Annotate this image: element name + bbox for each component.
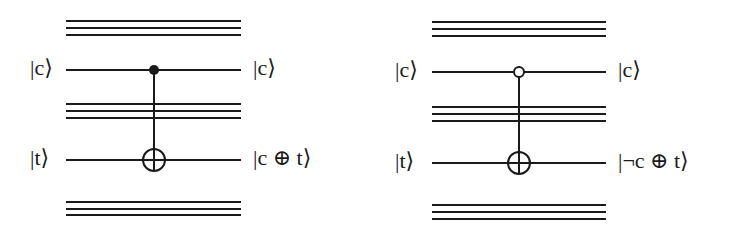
cnot-negative-control-panel: |c⟩ |t⟩ |c⟩ |¬c ⊕ t⟩: [395, 22, 689, 219]
filled-control-dot-icon: [149, 65, 159, 75]
input-label-control: |c⟩: [395, 57, 418, 82]
input-label-control: |c⟩: [30, 55, 53, 80]
bottom-bus-wires: [432, 205, 606, 219]
input-label-target: |t⟩: [30, 145, 49, 170]
cnot-positive-control-panel: |c⟩ |t⟩ |c⟩ |c ⊕ t⟩: [30, 21, 311, 215]
output-label-target: |c ⊕ t⟩: [253, 145, 311, 170]
bottom-bus-wires: [66, 202, 241, 215]
output-label-control: |c⟩: [618, 57, 641, 82]
output-label-control: |c⟩: [253, 55, 276, 80]
open-control-circle-icon: [514, 67, 524, 77]
top-bus-wires: [66, 21, 241, 35]
input-label-target: |t⟩: [395, 148, 414, 173]
quantum-circuit-figure: |c⟩ |t⟩ |c⟩ |c ⊕ t⟩ |c⟩ |t⟩ |c⟩ |¬c ⊕ t⟩: [0, 0, 729, 235]
output-label-target: |¬c ⊕ t⟩: [618, 148, 689, 173]
xor-target-icon: [143, 149, 165, 171]
xor-target-icon: [508, 152, 530, 174]
top-bus-wires: [432, 22, 606, 36]
